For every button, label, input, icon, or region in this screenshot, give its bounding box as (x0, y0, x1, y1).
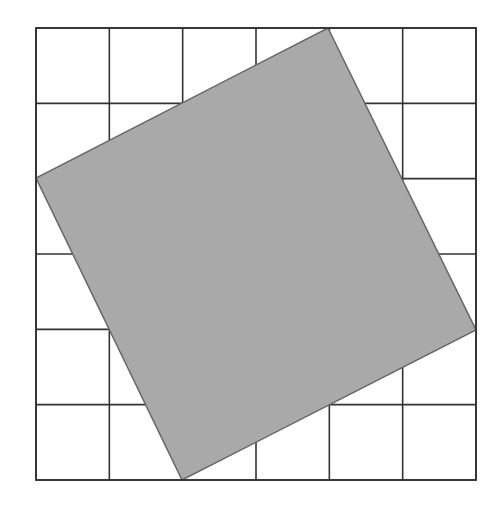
diagram-canvas (0, 0, 500, 517)
tilted-square (36, 28, 476, 480)
